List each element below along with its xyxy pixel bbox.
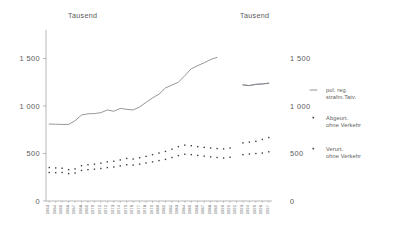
series-dot-2 bbox=[49, 167, 50, 168]
series-dot-3 bbox=[132, 164, 133, 165]
x-tick-1984: 1984 bbox=[181, 204, 186, 214]
x-tick-1964: 1964 bbox=[52, 204, 57, 214]
series-dot-2 bbox=[145, 156, 146, 157]
y-tick-right-1000: 1 000 bbox=[290, 102, 311, 111]
series-dot-2 bbox=[74, 168, 75, 169]
y-tick-right-1500: 1 500 bbox=[290, 54, 311, 63]
x-tick-1997: 1997 bbox=[265, 204, 270, 214]
series-dot-2 bbox=[268, 137, 269, 138]
x-tick-1994: 1994 bbox=[245, 204, 250, 214]
series-dot-3 bbox=[139, 163, 140, 164]
series-dot-3 bbox=[61, 172, 62, 173]
series-dot-2 bbox=[171, 149, 172, 150]
legend-label-line2: ohne Verkehr bbox=[326, 153, 361, 159]
x-tick-1976: 1976 bbox=[129, 204, 134, 214]
series-dot-3 bbox=[74, 172, 75, 173]
series-dot-2 bbox=[184, 144, 185, 145]
series-dot-3 bbox=[145, 162, 146, 163]
legend-label-line2: ohne Verkehr bbox=[326, 122, 361, 128]
x-tick-1992: 1992 bbox=[232, 204, 237, 214]
x-tick-1986: 1986 bbox=[194, 204, 199, 214]
series-dot-3 bbox=[158, 160, 159, 161]
series-dot-2 bbox=[204, 147, 205, 148]
series-dot-2 bbox=[68, 169, 69, 170]
left-unit-label: Tausend bbox=[68, 11, 97, 20]
series-dot-2 bbox=[249, 141, 250, 142]
series-dot-2 bbox=[132, 158, 133, 159]
x-tick-1966: 1966 bbox=[65, 204, 70, 214]
series-dot-3 bbox=[113, 166, 114, 167]
series-dot-3 bbox=[249, 153, 250, 154]
series-dot-2 bbox=[229, 147, 230, 148]
crime-statistics-chart: Tausend Tausend 05001 0001 500 05001 000… bbox=[0, 0, 393, 232]
x-tick-1987: 1987 bbox=[200, 204, 205, 214]
x-tick-1971: 1971 bbox=[97, 204, 102, 214]
x-axis-ticks: 1963196419651966196719681969197019711972… bbox=[45, 201, 270, 214]
series-dot-3 bbox=[197, 155, 198, 156]
x-tick-1980: 1980 bbox=[155, 204, 160, 214]
series-dot-3 bbox=[229, 157, 230, 158]
series-dot-3 bbox=[68, 173, 69, 174]
series-dot-3 bbox=[94, 168, 95, 169]
series-dot-2 bbox=[197, 146, 198, 147]
series-dot-2 bbox=[100, 162, 101, 163]
series-layer bbox=[49, 57, 270, 174]
series-line-0 bbox=[49, 57, 217, 124]
series-dot-3 bbox=[210, 156, 211, 157]
series-dot-3 bbox=[242, 154, 243, 155]
y-axis-ticks-left: 05001 0001 500 bbox=[20, 54, 47, 206]
series-dot-2 bbox=[178, 146, 179, 147]
x-tick-1990: 1990 bbox=[220, 204, 225, 214]
x-tick-1968: 1968 bbox=[78, 204, 83, 214]
y-tick-left-1000: 1 000 bbox=[20, 102, 41, 111]
y-tick-left-0: 0 bbox=[35, 197, 40, 206]
series-dot-3 bbox=[152, 161, 153, 162]
series-dot-3 bbox=[191, 154, 192, 155]
y-tick-left-1500: 1 500 bbox=[20, 54, 41, 63]
series-dot-3 bbox=[268, 151, 269, 152]
y-tick-right-500: 500 bbox=[290, 149, 304, 158]
series-dot-3 bbox=[171, 157, 172, 158]
legend-label-line2: strafm.Tatv. bbox=[326, 94, 357, 100]
series-dot-2 bbox=[210, 147, 211, 148]
legend-label-line1: pol. reg. bbox=[326, 87, 348, 93]
chart-container: Tausend Tausend 05001 0001 500 05001 000… bbox=[0, 0, 393, 232]
series-line-1 bbox=[243, 83, 269, 85]
series-dot-2 bbox=[126, 158, 127, 159]
x-tick-1978: 1978 bbox=[142, 204, 147, 214]
legend-marker-dot bbox=[313, 148, 315, 150]
x-tick-1977: 1977 bbox=[136, 204, 141, 214]
x-tick-1963: 1963 bbox=[45, 204, 50, 214]
series-dot-3 bbox=[107, 167, 108, 168]
x-tick-1985: 1985 bbox=[187, 204, 192, 214]
series-dot-3 bbox=[100, 168, 101, 169]
series-dot-2 bbox=[191, 145, 192, 146]
x-tick-1993: 1993 bbox=[239, 204, 244, 214]
series-dot-3 bbox=[165, 159, 166, 160]
series-dot-3 bbox=[262, 152, 263, 153]
series-dot-3 bbox=[184, 154, 185, 155]
series-dot-2 bbox=[87, 164, 88, 165]
series-dot-2 bbox=[158, 152, 159, 153]
x-tick-1973: 1973 bbox=[110, 204, 115, 214]
x-tick-1991: 1991 bbox=[226, 204, 231, 214]
series-dot-2 bbox=[120, 159, 121, 160]
series-dot-2 bbox=[55, 167, 56, 168]
x-tick-1974: 1974 bbox=[116, 204, 121, 214]
series-dot-2 bbox=[107, 161, 108, 162]
series-dot-3 bbox=[126, 164, 127, 165]
y-axis-ticks-right: 05001 0001 500 bbox=[290, 54, 311, 206]
legend-marker-dot bbox=[313, 117, 315, 119]
series-dot-2 bbox=[223, 148, 224, 149]
x-tick-1972: 1972 bbox=[103, 204, 108, 214]
series-dot-2 bbox=[113, 161, 114, 162]
x-tick-1988: 1988 bbox=[207, 204, 212, 214]
series-dot-2 bbox=[165, 151, 166, 152]
x-tick-1979: 1979 bbox=[149, 204, 154, 214]
series-dot-3 bbox=[120, 165, 121, 166]
x-tick-1967: 1967 bbox=[71, 204, 76, 214]
x-tick-1981: 1981 bbox=[161, 204, 166, 214]
series-dot-3 bbox=[255, 153, 256, 154]
series-dot-2 bbox=[242, 142, 243, 143]
series-dot-2 bbox=[139, 157, 140, 158]
